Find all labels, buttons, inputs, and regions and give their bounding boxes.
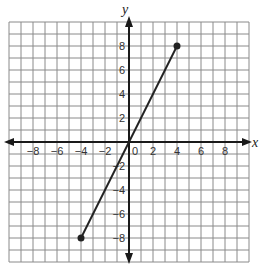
y-tick-label: −6 — [112, 208, 125, 220]
x-tick-label: −8 — [27, 145, 40, 157]
endpoint-dot-icon — [78, 235, 85, 242]
x-tick-label: −2 — [99, 145, 112, 157]
x-axis-label: x — [251, 135, 259, 150]
y-tick-label: 6 — [119, 64, 125, 76]
x-axis-right-arrow-icon — [242, 138, 252, 146]
x-tick-label: −6 — [51, 145, 64, 157]
y-axis-label: y — [120, 2, 129, 17]
endpoint-dot-icon — [174, 43, 181, 50]
y-tick-label: 2 — [119, 112, 125, 124]
x-tick-label: 2 — [150, 145, 156, 157]
x-tick-label: 8 — [222, 145, 228, 157]
x-tick-label: 0 — [132, 145, 138, 157]
x-tick-label: 6 — [198, 145, 204, 157]
y-tick-label: −4 — [112, 184, 125, 196]
y-tick-label: 8 — [119, 40, 125, 52]
x-tick-label: −4 — [75, 145, 88, 157]
axes — [4, 16, 252, 264]
y-tick-label: 4 — [119, 88, 125, 100]
x-tick-label: 4 — [174, 145, 180, 157]
coordinate-plane: −8−6−4−2024688642−2−4−6−8 x y — [0, 0, 260, 268]
y-tick-label: −8 — [112, 232, 125, 244]
